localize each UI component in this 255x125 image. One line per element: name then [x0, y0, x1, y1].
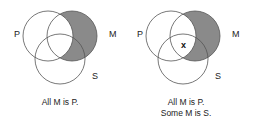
caption-line: Some M is S. [131, 108, 241, 119]
caption-line: All M is P. [131, 97, 241, 108]
caption-1: All M is P. [5, 97, 115, 108]
label-s: S [92, 71, 98, 81]
label-p: P [137, 29, 143, 39]
label-m: M [109, 29, 117, 39]
label-p: P [14, 29, 20, 39]
caption-2: All M is P. Some M is S. [131, 97, 241, 119]
label-s: S [215, 71, 221, 81]
existence-mark-x: x [181, 40, 186, 50]
venn-diagram-1: P M S [0, 0, 128, 100]
label-m: M [232, 29, 240, 39]
venn-diagram-2: P M S x [128, 0, 255, 100]
caption-line: All M is P. [5, 97, 115, 108]
